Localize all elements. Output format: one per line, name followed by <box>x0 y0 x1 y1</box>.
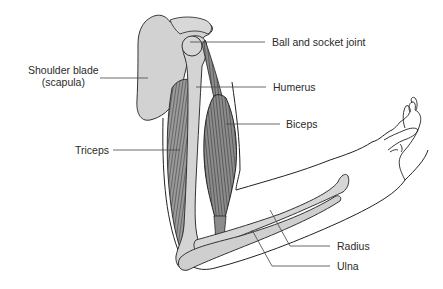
label-humerus: Humerus <box>273 81 316 93</box>
label-radius: Radius <box>337 240 370 252</box>
label-ulna: Ulna <box>337 260 359 272</box>
biceps-tendon <box>202 40 222 98</box>
label-shoulder-blade-text: Shoulder blade <box>28 64 99 76</box>
label-biceps: Biceps <box>286 118 318 130</box>
hand-outline <box>384 97 421 180</box>
biceps-muscle <box>204 95 237 218</box>
humeral-head <box>182 36 202 56</box>
ulna-bone <box>178 196 340 271</box>
label-ball-socket-joint: Ball and socket joint <box>272 36 365 48</box>
arm-illustration <box>0 0 443 289</box>
arm-anatomy-diagram: Shoulder blade (scapula) Ball and socket… <box>0 0 443 289</box>
label-scapula-text: (scapula) <box>28 76 99 88</box>
label-triceps: Triceps <box>75 144 109 156</box>
label-shoulder-blade: Shoulder blade (scapula) <box>28 64 99 88</box>
